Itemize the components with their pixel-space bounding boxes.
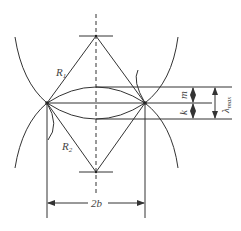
r1-left-line	[47, 36, 96, 103]
top-vertex	[95, 35, 97, 37]
r2-label: R2	[61, 140, 73, 154]
r1-label: R1	[55, 66, 66, 80]
r1-right-line	[96, 36, 145, 103]
left-cross-arc	[47, 103, 54, 140]
right-upper-arc	[145, 37, 178, 103]
geometry-diagram: R1 R2 2b m k λmax	[0, 0, 241, 231]
k-label: k	[177, 109, 189, 115]
left-lower-arc	[15, 103, 47, 168]
width-label: 2b	[91, 197, 103, 209]
lambda-max-label: λmax	[219, 96, 233, 114]
m-label: m	[177, 91, 189, 99]
r2-left-line	[47, 103, 96, 172]
r2-right-line	[96, 103, 145, 172]
left-upper-arc	[15, 37, 47, 103]
bottom-vertex	[95, 171, 97, 173]
right-lower-arc	[145, 103, 178, 168]
